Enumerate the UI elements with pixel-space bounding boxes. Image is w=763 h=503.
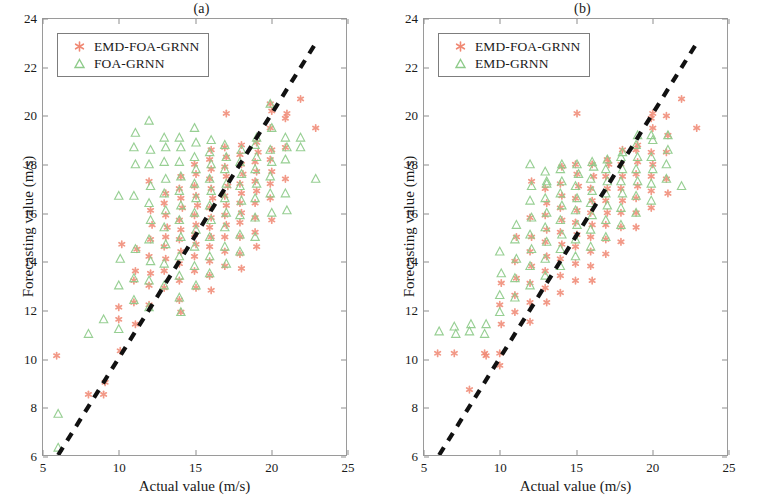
x-tick-label: 15 — [570, 455, 583, 476]
scatter-marker-triangle — [281, 133, 289, 141]
scatter-marker-asterisk — [208, 287, 214, 293]
scatter-marker-asterisk — [648, 205, 654, 211]
panel-a-ylabel: Forecasting value (m/s) — [20, 97, 37, 357]
scatter-marker-triangle — [130, 143, 138, 151]
scatter-marker-asterisk — [224, 110, 230, 116]
scatter-marker-asterisk — [161, 200, 167, 206]
scatter-marker-triangle — [281, 155, 289, 163]
scatter-marker-asterisk — [664, 113, 670, 119]
panel-b-xlabel: Actual value (m/s) — [423, 478, 728, 495]
scatter-marker-triangle — [146, 145, 154, 153]
scatter-marker-asterisk — [573, 277, 579, 283]
x-tick-label: 20 — [265, 455, 278, 476]
panel-a-plot-area: 681012141618202224510152025 EMD-FOA-GRNN — [42, 18, 347, 456]
scatter-marker-triangle — [647, 179, 655, 187]
legend-label-a-2: FOA-GRNN — [94, 56, 165, 72]
scatter-marker-asterisk — [207, 244, 213, 250]
scatter-marker-asterisk — [573, 260, 579, 266]
reference-line-y-equals-x — [439, 43, 697, 455]
x-tick-mark — [195, 450, 196, 455]
y-tick-label: 8 — [31, 400, 44, 416]
y-tick-label: 24 — [405, 11, 424, 27]
scatter-marker-asterisk — [86, 391, 92, 397]
x-tick-mark-top — [576, 19, 577, 24]
y-tick-mark-right — [341, 116, 346, 117]
chart-panel-a: (a) 681012141618202224510152025 — [0, 0, 381, 503]
scatter-marker-triangle — [99, 315, 107, 323]
scatter-marker-triangle — [146, 216, 154, 224]
scatter-marker-asterisk — [573, 244, 579, 250]
series-2-markers — [435, 131, 686, 337]
panel-a-scatter-canvas — [43, 19, 346, 455]
scatter-marker-asterisk — [133, 321, 139, 327]
scatter-marker-triangle — [175, 158, 183, 166]
y-tick-mark-right — [722, 311, 727, 312]
scatter-marker-triangle — [145, 199, 153, 207]
scatter-marker-asterisk — [146, 282, 152, 288]
y-tick-label: 22 — [24, 60, 43, 76]
x-tick-mark — [729, 450, 730, 455]
y-tick-mark-right — [341, 19, 346, 20]
scatter-marker-asterisk — [148, 207, 154, 213]
x-tick-mark — [348, 450, 349, 455]
scatter-marker-triangle — [526, 160, 534, 168]
scatter-marker-triangle — [84, 330, 92, 338]
x-tick-mark-top — [43, 19, 44, 24]
y-tick-mark — [424, 408, 429, 409]
x-tick-mark — [576, 450, 577, 455]
scatter-marker-asterisk — [603, 251, 609, 257]
scatter-marker-triangle — [54, 409, 62, 417]
y-tick-mark — [424, 311, 429, 312]
x-tick-mark — [500, 450, 501, 455]
scatter-marker-triangle — [541, 194, 549, 202]
scatter-marker-triangle — [162, 174, 170, 182]
scatter-marker-asterisk — [589, 277, 595, 283]
x-tick-label: 10 — [494, 455, 507, 476]
scatter-marker-triangle — [145, 160, 153, 168]
scatter-marker-triangle — [296, 133, 304, 141]
x-tick-mark — [43, 450, 44, 455]
scatter-marker-asterisk — [498, 280, 504, 286]
scatter-marker-asterisk — [618, 210, 624, 216]
scatter-marker-asterisk — [588, 248, 594, 254]
y-tick-mark — [43, 19, 48, 20]
scatter-marker-triangle — [617, 153, 625, 161]
y-tick-mark — [424, 116, 429, 117]
x-tick-label: 5 — [40, 455, 47, 476]
figure-root: (a) 681012141618202224510152025 — [0, 0, 763, 503]
scatter-marker-asterisk — [222, 234, 228, 240]
y-tick-mark — [43, 262, 48, 263]
scatter-marker-asterisk — [254, 188, 260, 194]
scatter-marker-asterisk — [269, 217, 275, 223]
legend-label-a-1: EMD-FOA-GRNN — [94, 39, 199, 55]
x-tick-label: 5 — [421, 455, 428, 476]
scatter-marker-asterisk — [452, 350, 458, 356]
scatter-marker-triangle — [649, 136, 657, 144]
scatter-marker-triangle — [160, 158, 168, 166]
scatter-marker-triangle — [497, 269, 505, 277]
scatter-marker-triangle — [543, 177, 551, 185]
scatter-marker-asterisk — [207, 224, 213, 230]
y-tick-mark-right — [722, 67, 727, 68]
y-tick-mark — [43, 213, 48, 214]
scatter-marker-asterisk — [635, 183, 641, 189]
scatter-marker-triangle — [116, 254, 124, 262]
panel-a-xlabel: Actual value (m/s) — [42, 478, 347, 495]
y-tick-mark — [424, 359, 429, 360]
triangle-marker-icon — [64, 57, 94, 70]
scatter-marker-triangle — [162, 143, 170, 151]
scatter-marker-asterisk — [192, 253, 198, 259]
x-tick-label: 25 — [723, 455, 736, 476]
panel-b-legend: EMD-FOA-GRNN EMD-GRNN — [438, 33, 590, 77]
y-tick-mark-right — [341, 165, 346, 166]
scatter-marker-asterisk — [633, 171, 639, 177]
panel-a-title: (a) — [0, 1, 381, 17]
scatter-marker-triangle — [467, 320, 475, 328]
x-tick-mark — [424, 450, 425, 455]
scatter-marker-triangle — [130, 191, 138, 199]
x-tick-mark — [652, 450, 653, 455]
scatter-marker-asterisk — [635, 159, 641, 165]
y-tick-mark — [424, 262, 429, 263]
scatter-marker-triangle — [647, 196, 655, 204]
panel-a-legend: EMD-FOA-GRNN FOA-GRNN — [57, 33, 209, 77]
